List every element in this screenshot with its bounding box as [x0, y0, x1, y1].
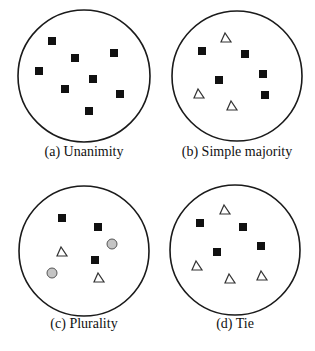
triangle-voter-icon	[57, 247, 67, 256]
triangle-voter-icon	[221, 33, 231, 42]
circle-voter-icon	[107, 239, 117, 249]
triangle-voter-icon	[192, 261, 202, 270]
square-voter-icon	[89, 75, 97, 83]
square-voter-icon	[198, 47, 206, 55]
square-voter-icon	[110, 49, 118, 57]
triangle-voter-icon	[94, 273, 104, 282]
triangle-voter-icon	[257, 271, 267, 280]
square-voter-icon	[257, 242, 265, 250]
circle-voter-icon	[47, 268, 57, 278]
group-circle	[18, 10, 150, 142]
voting-diagram	[0, 0, 315, 351]
group-circle	[19, 186, 149, 316]
square-voter-icon	[94, 223, 102, 231]
triangle-voter-icon	[220, 205, 230, 214]
square-voter-icon	[116, 90, 124, 98]
caption-a: (a) Unanimity	[45, 144, 124, 160]
triangle-voter-icon	[194, 89, 204, 98]
square-voter-icon	[35, 67, 43, 75]
square-voter-icon	[261, 91, 269, 99]
panel-c	[19, 186, 149, 316]
square-voter-icon	[241, 50, 249, 58]
square-voter-icon	[58, 214, 66, 222]
square-voter-icon	[61, 85, 69, 93]
square-voter-icon	[91, 256, 99, 264]
square-voter-icon	[48, 37, 56, 45]
caption-b: (b) Simple majority	[182, 144, 292, 160]
square-voter-icon	[215, 76, 223, 84]
panel-a	[18, 10, 150, 142]
square-voter-icon	[85, 107, 93, 115]
panel-b	[172, 11, 302, 141]
caption-c: (c) Plurality	[50, 316, 117, 332]
square-voter-icon	[213, 248, 221, 256]
square-voter-icon	[259, 70, 267, 78]
square-voter-icon	[239, 223, 247, 231]
square-voter-icon	[71, 54, 79, 62]
group-circle	[170, 185, 300, 315]
triangle-voter-icon	[227, 101, 237, 110]
triangle-voter-icon	[225, 274, 235, 283]
panel-d	[170, 185, 300, 315]
caption-d: (d) Tie	[216, 316, 254, 332]
square-voter-icon	[196, 219, 204, 227]
group-circle	[172, 11, 302, 141]
